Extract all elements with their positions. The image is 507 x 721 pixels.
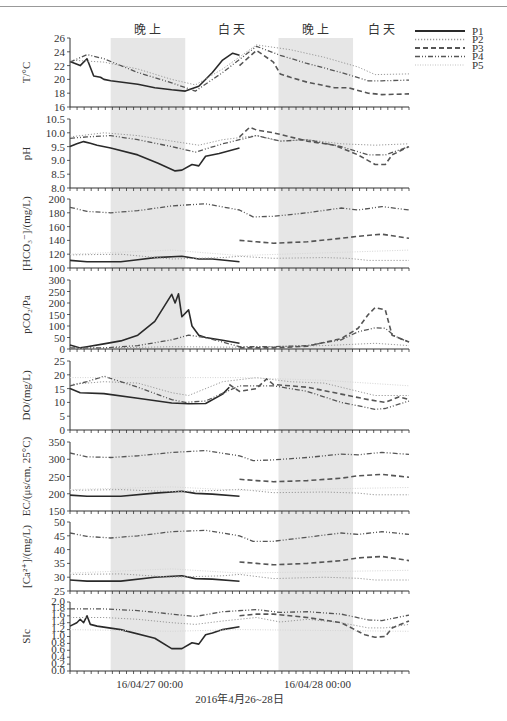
y-tick-label: 2.0 — [51, 595, 65, 607]
y-tick-label: 20 — [54, 369, 66, 381]
y-tick-label: 45 — [54, 530, 66, 542]
y-axis-title: DO/(mg/L) — [20, 370, 33, 420]
y-tick-label: 200 — [49, 488, 66, 500]
y-tick-label: 50 — [54, 332, 66, 344]
y-tick-label: 9.0 — [51, 154, 65, 166]
multi-panel-line-chart: 晚 上白 天晚 上白 天161820222426T/°C8.08.59.09.5… — [0, 0, 507, 721]
y-tick-label: 24 — [54, 46, 66, 58]
y-tick-label: 120 — [49, 248, 66, 260]
y-tick-label: 140 — [49, 234, 66, 246]
y-tick-label: 160 — [49, 221, 66, 233]
y-tick-label: 200 — [49, 193, 66, 205]
y-tick-label: 50 — [54, 516, 66, 528]
y-axis-title: [HCO₃⁻]/(mg/L) — [20, 196, 33, 271]
period-label: 白 天 — [368, 22, 395, 37]
y-axis-title: pH — [20, 147, 32, 161]
y-axis-title: [Ca²⁺]/(mg/L) — [20, 525, 33, 588]
y-tick-label: 20 — [54, 73, 66, 85]
y-tick-label: 150 — [49, 309, 66, 321]
period-label: 白 天 — [218, 22, 245, 37]
night-shade-band — [278, 38, 353, 671]
y-tick-label: 5 — [60, 410, 66, 422]
y-axis-title: T/°C — [20, 62, 32, 84]
y-tick-label: 25 — [54, 355, 66, 367]
y-tick-label: 26 — [54, 32, 66, 44]
y-tick-label: 350 — [49, 436, 66, 448]
y-axis-title: pCO₂/Pa — [20, 295, 32, 334]
y-axis-title: EC/(μs/cm, 25°C) — [20, 436, 33, 516]
y-tick-label: 0 — [60, 424, 66, 436]
y-tick-label: 0 — [60, 343, 66, 355]
y-tick-label: 16 — [54, 101, 66, 113]
period-label: 晚 上 — [302, 23, 329, 37]
y-tick-label: 22 — [54, 60, 65, 72]
y-tick-label: 30 — [54, 571, 66, 583]
x-axis-title: 2016年4月26~28日 — [195, 692, 283, 705]
legend: P1P2P3P4P5 — [415, 25, 484, 71]
y-tick-label: 100 — [49, 320, 66, 332]
y-tick-label: 300 — [49, 453, 66, 465]
legend-label: P5 — [472, 59, 484, 71]
y-tick-label: 8.5 — [51, 168, 65, 180]
y-tick-label: 40 — [54, 544, 66, 556]
y-axis-title: SIc — [20, 629, 32, 644]
y-tick-label: 250 — [49, 471, 66, 483]
y-tick-label: 300 — [49, 274, 66, 286]
y-tick-label: 35 — [54, 557, 66, 569]
y-tick-label: 200 — [49, 297, 66, 309]
y-tick-label: 180 — [49, 207, 66, 219]
x-tick-label: 16/04/27 00:00 — [116, 678, 183, 690]
y-tick-label: 9.5 — [51, 141, 65, 153]
period-label: 晚 上 — [134, 23, 161, 37]
y-tick-label: 100 — [49, 262, 66, 274]
y-tick-label: 18 — [54, 87, 66, 99]
y-tick-label: 10.5 — [46, 113, 66, 125]
y-tick-label: 10.0 — [46, 127, 66, 139]
x-tick-label: 16/04/28 00:00 — [284, 678, 351, 690]
y-tick-label: 10 — [54, 396, 66, 408]
y-tick-label: 250 — [49, 286, 66, 298]
y-tick-label: 15 — [54, 383, 66, 395]
